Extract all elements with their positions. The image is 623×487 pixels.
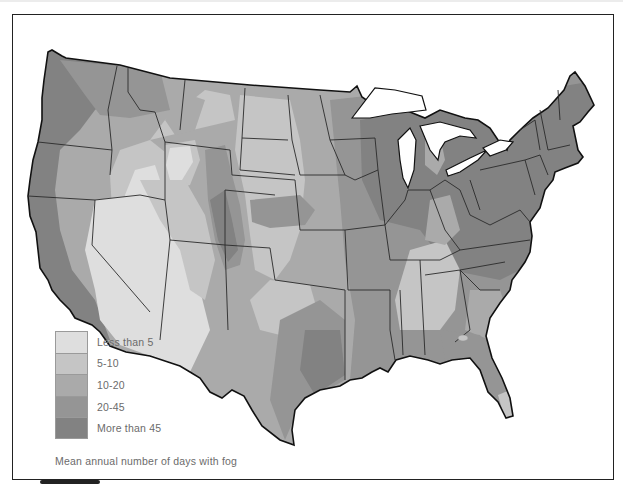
scan-artifact — [40, 480, 100, 484]
legend-item: More than 45 — [55, 417, 161, 439]
map-caption: Mean annual number of days with fog — [55, 455, 237, 467]
legend-item: 10-20 — [55, 374, 161, 396]
legend-label: 5-10 — [97, 357, 119, 369]
legend-item: Less than 5 — [55, 331, 161, 353]
legend-label: Less than 5 — [97, 336, 154, 348]
legend-item: 20-45 — [55, 396, 161, 418]
legend: Less than 5 5-10 10-20 20-45 More than 4… — [55, 331, 161, 439]
legend-item: 5-10 — [55, 353, 161, 375]
legend-swatch — [55, 331, 88, 353]
legend-swatch — [55, 396, 88, 418]
legend-label: More than 45 — [97, 422, 161, 434]
legend-swatch — [55, 374, 88, 396]
legend-swatch — [55, 417, 88, 439]
legend-swatch — [55, 353, 88, 375]
legend-label: 10-20 — [97, 379, 125, 391]
lake-spot — [458, 335, 468, 341]
legend-label: 20-45 — [97, 401, 125, 413]
